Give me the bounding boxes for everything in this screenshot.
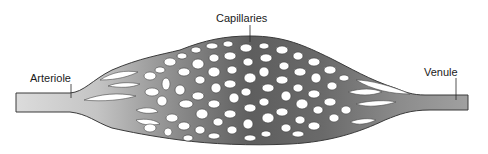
capillary-bed-diagram: Capillaries Arteriole Venule [0,0,488,154]
venule-label: Venule [424,66,458,78]
arteriole-label: Arteriole [30,72,71,84]
capillaries-label: Capillaries [216,12,267,24]
